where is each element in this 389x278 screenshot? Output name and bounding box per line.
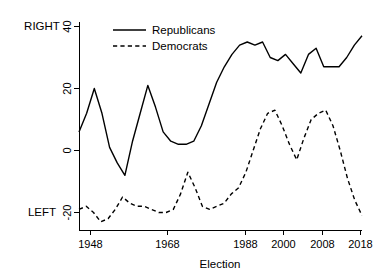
legend-label-republicans: Republicans xyxy=(152,24,216,36)
y-tick-label-0: 0 xyxy=(61,147,73,153)
legend-label-democrats: Democrats xyxy=(152,40,208,52)
chart-figure: 40 20 0 -20 RIGHT LEFT 1948 1968 1988 20… xyxy=(0,0,389,278)
y-tick-label-minus20: -20 xyxy=(61,205,73,221)
x-axis-tick-labels: 1948 1968 1988 2000 2008 2018 xyxy=(78,238,372,250)
x-tick-label-2008: 2008 xyxy=(310,238,334,250)
x-tick-label-1968: 1968 xyxy=(155,238,179,250)
polarization-line-chart: 40 20 0 -20 RIGHT LEFT 1948 1968 1988 20… xyxy=(0,0,389,278)
x-tick-label-2018: 2018 xyxy=(348,238,372,250)
x-tick-label-1948: 1948 xyxy=(78,238,102,250)
y-axis-tick-labels: 40 20 0 -20 xyxy=(61,20,73,220)
pole-label-left: LEFT xyxy=(28,206,56,218)
x-tick-label-1988: 1988 xyxy=(233,238,257,250)
x-axis-ticks xyxy=(91,230,361,235)
x-tick-label-2000: 2000 xyxy=(271,238,295,250)
x-axis-title: Election xyxy=(200,258,241,270)
y-tick-label-20: 20 xyxy=(61,82,73,94)
pole-label-right: RIGHT xyxy=(24,20,60,32)
y-tick-label-40: 40 xyxy=(61,20,73,32)
y-axis-ticks xyxy=(74,27,79,213)
